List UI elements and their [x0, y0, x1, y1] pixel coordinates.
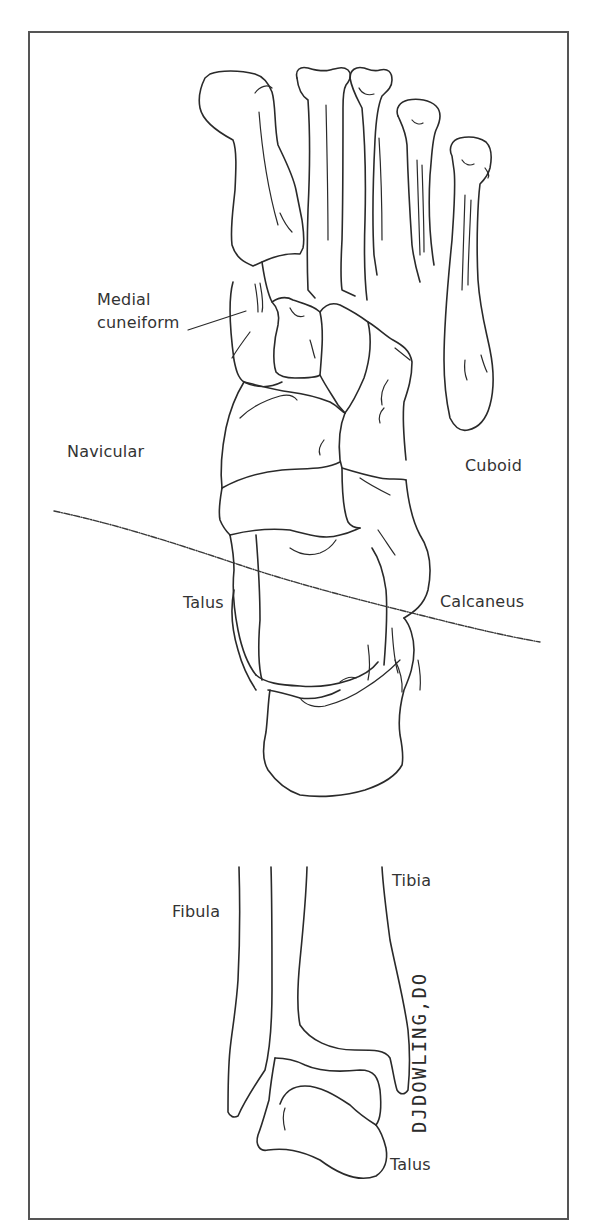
label-medial-cuneiform-line2: cuneiform	[97, 313, 179, 332]
label-calcaneus: Calcaneus	[440, 592, 524, 611]
label-navicular: Navicular	[67, 442, 144, 461]
label-tibia: Tibia	[392, 871, 431, 890]
label-fibula: Fibula	[172, 902, 220, 921]
foot-dorsal-view	[54, 67, 540, 796]
foot-ankle-illustration	[0, 0, 595, 1230]
label-talus-foot: Talus	[183, 593, 224, 612]
label-talus-ankle: Talus	[390, 1155, 431, 1174]
label-medial-cuneiform-line1: Medial	[97, 290, 151, 309]
ankle-coronal-view	[228, 867, 410, 1178]
artist-signature: DJDOWLING,DO	[408, 972, 430, 1133]
label-cuboid: Cuboid	[465, 456, 522, 475]
